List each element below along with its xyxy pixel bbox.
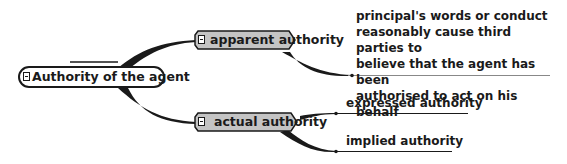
collapse-actual-icon[interactable] [198, 117, 205, 126]
connector-actual-to-implied [280, 130, 336, 152]
topic-apparent-authority-label: apparent authority [210, 31, 344, 49]
collapse-central-icon[interactable] [23, 72, 30, 81]
connector-apparent-to-description [282, 52, 352, 76]
connector-central-to-actual [118, 88, 196, 124]
central-topic-label: Authority of the agent [32, 69, 190, 84]
topic-actual-authority-label: actual authority [214, 113, 327, 131]
description-line: believe that the agent has been [356, 56, 556, 88]
subtopic-implied-authority[interactable]: implied authority [346, 134, 463, 148]
central-topic[interactable]: Authority of the agent [18, 66, 165, 88]
collapse-apparent-icon[interactable] [198, 35, 205, 44]
description-line: principal's words or conduct [356, 8, 556, 24]
subtopic-implied-authority-label: implied authority [346, 134, 463, 148]
topic-apparent-authority[interactable]: apparent authority [194, 30, 296, 50]
subtopic-expressed-authority[interactable]: expressed authority [346, 96, 482, 110]
topic-actual-authority[interactable]: actual authority [194, 112, 298, 132]
connector-central-to-apparent [118, 40, 196, 68]
subtopic-expressed-authority-label: expressed authority [346, 96, 482, 110]
description-line: reasonably cause third parties to [356, 24, 556, 56]
